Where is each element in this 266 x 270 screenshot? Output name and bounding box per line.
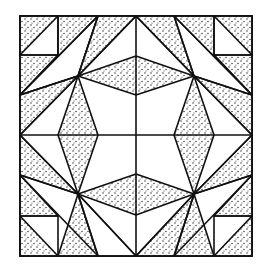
quilt-block-drawing [0,0,266,270]
quilt-figure [0,0,266,270]
